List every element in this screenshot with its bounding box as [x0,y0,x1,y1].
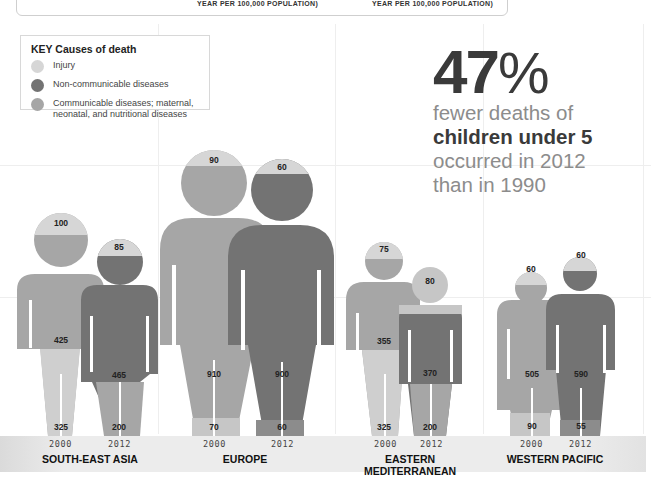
region-label-eastern-mediterranean: EASTERN MEDITERRANEAN [360,453,460,477]
value-label: 900 [275,369,289,379]
value-label: 100 [54,218,68,228]
value-label: 60 [576,250,585,260]
value-label: 90 [527,421,536,431]
value-label: 200 [423,422,437,432]
value-label: 80 [425,276,434,286]
year-label: 2000 [374,439,397,449]
value-label: 370 [423,368,437,378]
value-label: 70 [209,422,218,432]
value-label: 425 [54,335,68,345]
value-label: 60 [526,264,535,274]
year-label: 2012 [271,439,294,449]
value-label: 910 [207,369,221,379]
value-label: 325 [377,422,391,432]
year-label: 2000 [49,439,72,449]
year-label: 2000 [520,439,543,449]
region-label-south-east-asia: SOUTH-EAST ASIA [20,453,160,465]
value-label: 465 [112,370,126,380]
value-label: 355 [377,336,391,346]
value-label: 85 [114,242,123,252]
region-label-western-pacific: WESTERN PACIFIC [505,453,605,465]
year-label: 2012 [108,439,131,449]
year-label: 2012 [569,439,592,449]
year-label: 2000 [203,439,226,449]
value-label: 90 [209,155,218,165]
pictogram-figures [0,0,651,490]
year-label: 2012 [420,439,443,449]
region-label-europe: EUROPE [200,453,290,465]
value-label: 55 [576,421,585,431]
value-label: 200 [112,422,126,432]
value-label: 590 [574,369,588,379]
value-label: 325 [54,422,68,432]
value-label: 505 [525,369,539,379]
value-label: 60 [277,162,286,172]
figure-sea-2012 [81,238,158,436]
value-label: 60 [277,422,286,432]
value-label: 75 [379,244,388,254]
